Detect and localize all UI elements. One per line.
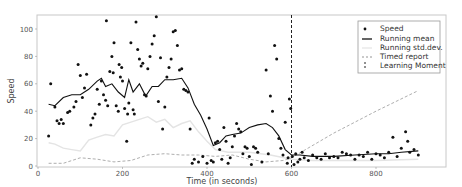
speed-point: [256, 151, 259, 154]
speed-point: [265, 69, 268, 72]
legend-speed-marker: [364, 28, 367, 31]
speed-point: [206, 162, 209, 165]
speed-point: [241, 152, 244, 155]
speed-point: [216, 140, 219, 143]
speed-point: [267, 152, 270, 155]
speed-point: [72, 106, 75, 109]
speed-point: [159, 56, 162, 59]
speed-point: [337, 156, 340, 159]
speed-point: [269, 95, 272, 98]
speed-point: [212, 160, 215, 163]
speed-point: [235, 122, 238, 125]
x-tick-label: 800: [369, 170, 382, 178]
speed-point: [94, 112, 97, 115]
y-tick-label: 60: [24, 80, 33, 88]
speed-point: [145, 95, 148, 98]
legend-running-mean: Running mean: [380, 34, 435, 43]
speed-point: [396, 155, 399, 158]
speed-point: [127, 102, 130, 105]
speed-point: [106, 104, 109, 107]
speed-point: [220, 158, 223, 161]
speed-point: [121, 80, 124, 83]
speed-point: [404, 130, 407, 133]
speed-point: [120, 66, 123, 69]
speed-point: [133, 112, 136, 115]
speed-point: [366, 151, 369, 154]
speed-point: [307, 159, 310, 162]
legend-learning-moment: Learning Moment: [380, 61, 446, 70]
speed-point: [288, 97, 291, 100]
speed-point: [58, 122, 61, 125]
speed-point: [108, 70, 111, 73]
speed-point: [193, 158, 196, 161]
speed-point: [75, 100, 78, 103]
speed-point: [49, 82, 52, 85]
speed-point: [284, 121, 287, 124]
speed-point: [370, 158, 373, 161]
speed-point: [233, 134, 236, 137]
speed-point: [112, 71, 115, 74]
speed-point: [79, 74, 82, 77]
speed-point: [345, 152, 348, 155]
speed-point: [91, 117, 94, 120]
speed-point: [118, 63, 121, 66]
speed-point: [155, 15, 158, 18]
speed-point: [151, 43, 154, 46]
speed-point: [324, 152, 327, 155]
speed-point: [239, 130, 242, 133]
speed-point: [132, 108, 135, 111]
speed-point: [180, 67, 183, 70]
speed-point: [246, 147, 249, 150]
speed-point: [328, 156, 331, 159]
speed-point: [104, 99, 107, 102]
speed-point: [358, 154, 361, 157]
speed-point: [287, 156, 290, 159]
y-tick-label: 80: [24, 53, 33, 61]
x-tick-label: 0: [36, 170, 40, 178]
speed-point: [279, 147, 282, 150]
speed-point: [273, 44, 276, 47]
speed-point: [136, 48, 139, 51]
speed-point: [56, 119, 59, 122]
speed-point: [187, 91, 190, 94]
speed-point: [391, 136, 394, 139]
speed-point: [100, 80, 103, 83]
y-tick-label: 40: [24, 108, 33, 116]
speed-point: [362, 155, 365, 158]
speed-point: [170, 58, 173, 61]
x-tick-label: 200: [116, 170, 129, 178]
speed-point: [201, 155, 204, 158]
speed-point: [85, 73, 88, 76]
speed-point: [315, 156, 318, 159]
speed-point: [83, 86, 86, 89]
speed-point: [129, 41, 132, 44]
speed-point: [408, 151, 411, 154]
speed-point: [176, 44, 179, 47]
speed-point: [96, 88, 99, 91]
speed-point: [293, 163, 296, 166]
speed-point: [189, 128, 192, 131]
speed-point: [320, 158, 323, 161]
speed-point: [332, 155, 335, 158]
speed-point: [296, 160, 299, 163]
legend-timed-report: Timed report: [379, 52, 428, 61]
speed-point: [191, 162, 194, 165]
speed-point: [218, 148, 221, 151]
speed-point: [117, 110, 120, 113]
speed-point: [77, 63, 80, 66]
speed-point: [113, 41, 116, 44]
speed-point: [413, 148, 416, 151]
speed-point: [165, 75, 168, 78]
speed-point: [126, 112, 129, 115]
speed-point: [301, 151, 304, 154]
speed-point: [254, 147, 257, 150]
speed-point: [125, 140, 128, 143]
y-axis-label: Speed: [7, 78, 16, 103]
speed-point: [119, 75, 122, 78]
speed-point: [311, 154, 314, 157]
speed-point: [157, 100, 160, 103]
speed-point: [303, 156, 306, 159]
speed-point: [260, 160, 263, 163]
speed-point: [341, 151, 344, 154]
speed-point: [227, 162, 230, 165]
